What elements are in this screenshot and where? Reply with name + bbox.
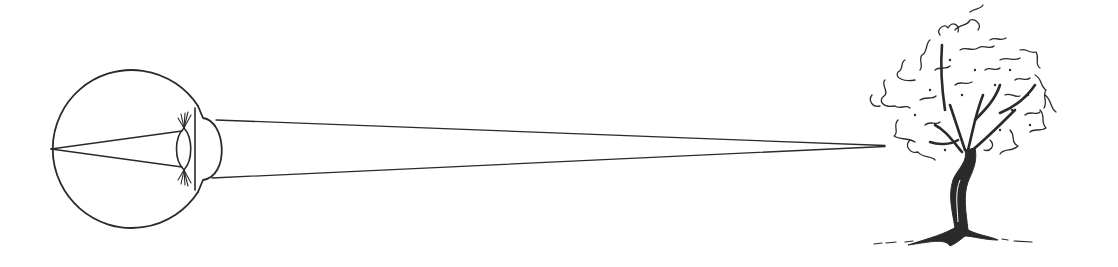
tree-icon xyxy=(870,5,1056,246)
internal-ray-top xyxy=(51,131,182,149)
ciliary-fibers-bottom xyxy=(178,170,191,186)
tree-foliage xyxy=(870,5,1056,160)
diagram-svg xyxy=(0,0,1118,267)
eye-icon xyxy=(51,70,222,228)
sight-lines xyxy=(212,120,885,178)
sight-ray-top xyxy=(216,120,885,146)
ciliary-fibers-top xyxy=(178,112,191,128)
tree-branches xyxy=(930,45,1035,152)
lens-shape xyxy=(177,128,191,170)
sight-ray-bottom xyxy=(212,147,885,179)
internal-ray-bottom xyxy=(51,149,182,167)
eye-tree-diagram xyxy=(0,0,1118,267)
